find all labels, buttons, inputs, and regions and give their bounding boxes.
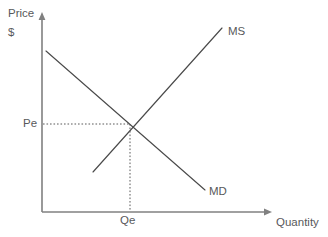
x-axis-label-quantity: Quantity [276, 216, 319, 229]
supply-curve-ms [93, 28, 222, 172]
demand-curve-md [46, 51, 205, 190]
x-axis-arrowhead [264, 209, 272, 216]
y-axis-label-price: Price [8, 7, 34, 20]
diagram-canvas [0, 0, 328, 237]
curve-label-md: MD [209, 185, 227, 198]
supply-demand-diagram: Price $ Quantity MS MD Pe Qe [0, 0, 328, 237]
equilibrium-price-label-pe: Pe [23, 117, 37, 130]
y-axis-units-dollar: $ [8, 26, 14, 39]
curve-label-ms: MS [228, 25, 245, 38]
equilibrium-quantity-label-qe: Qe [120, 214, 135, 227]
y-axis-arrowhead [39, 12, 46, 20]
